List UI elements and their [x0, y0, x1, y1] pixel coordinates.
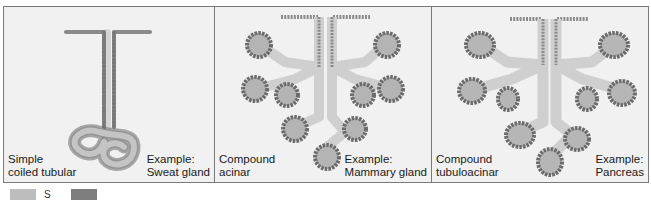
- panel-simple-coiled-tubular: Simple coiled tubular Example: Sweat gla…: [4, 7, 214, 182]
- gland-example-label: Example: Sweat gland: [147, 153, 210, 179]
- legend-swatch-dark: [71, 189, 97, 200]
- legend-swatch-light: [10, 189, 36, 200]
- gland-example-label: Example: Mammary gland: [345, 153, 427, 179]
- panel-compound-acinar: Compound acinar Example: Mammary gland: [214, 7, 431, 182]
- legend: S: [10, 189, 97, 200]
- gland-type-label: Compound tubuloacinar: [436, 153, 499, 179]
- legend-label: S: [44, 189, 51, 200]
- gland-types-figure: Simple coiled tubular Example: Sweat gla…: [3, 6, 649, 183]
- gland-type-label: Compound acinar: [219, 153, 275, 179]
- gland-type-label: Simple coiled tubular: [8, 153, 76, 179]
- panel-compound-tubuloacinar: Compound tubuloacinar Example: Pancreas: [431, 7, 648, 182]
- gland-example-label: Example: Pancreas: [595, 153, 644, 179]
